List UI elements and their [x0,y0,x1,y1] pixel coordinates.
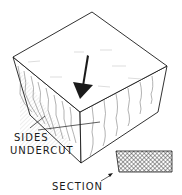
section-view [116,151,172,172]
section-leader-arrow-icon [101,173,113,181]
label-section: SECTION [52,181,103,192]
undercut-block-diagram: SIDES UNDERCUT SECTION [0,0,182,195]
label-undercut: UNDERCUT [10,145,74,156]
label-sides: SIDES [14,132,49,143]
